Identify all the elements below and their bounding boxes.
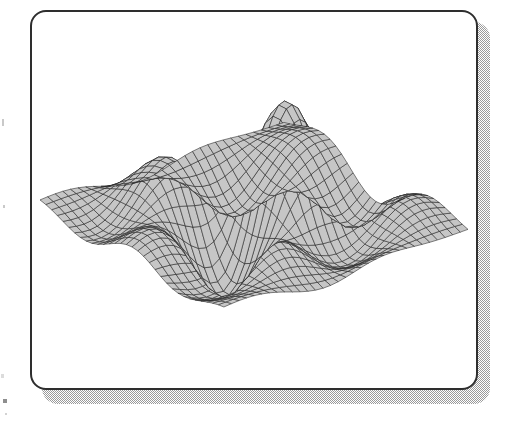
scan-speckle <box>3 205 5 208</box>
scan-speckle <box>3 399 7 403</box>
surface-mesh-facets <box>40 101 468 307</box>
scan-speckle <box>2 119 4 126</box>
figure-frame <box>30 10 478 390</box>
scan-speckle <box>5 413 7 415</box>
figure-page <box>0 0 509 427</box>
scan-speckle <box>1 374 4 378</box>
surface-plot <box>32 12 476 388</box>
